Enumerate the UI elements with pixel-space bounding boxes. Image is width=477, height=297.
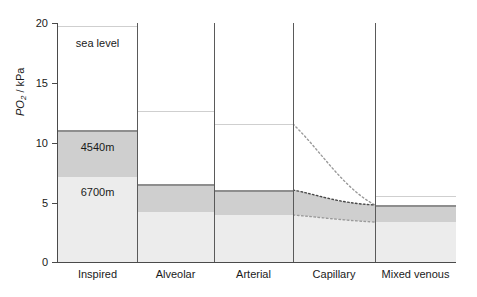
label-sea-level: sea level — [58, 37, 137, 49]
plot-area: sea level 4540m 6700m — [58, 23, 456, 262]
column-mixed-venous — [375, 23, 456, 262]
line-sea-level-inspired — [58, 26, 137, 27]
divider-arterial-capillary — [293, 23, 294, 262]
line-4540m-alveolar — [137, 184, 214, 186]
po2-altitude-chart: PO2 / kPa 20 15 10 5 0 sea level 4540m 6… — [0, 0, 477, 297]
capillary-low-fill — [293, 215, 375, 262]
line-4540m-mixed-venous — [375, 205, 456, 207]
divider-inspired-alveolar — [137, 23, 138, 262]
column-alveolar — [137, 23, 214, 262]
capillary-decay-curves — [293, 23, 375, 262]
line-sea-level-alveolar — [137, 111, 214, 112]
line-4540m-inspired — [58, 130, 137, 132]
line-sea-level-mixed-venous — [375, 196, 456, 197]
band-6700m-arterial — [214, 215, 293, 262]
y-axis-label: PO2 / kPa — [14, 26, 28, 116]
x-tick-label-capillary: Capillary — [293, 268, 375, 280]
divider-alveolar-arterial — [214, 23, 215, 262]
x-tick-label-inspired: Inspired — [58, 268, 137, 280]
x-axis-line — [57, 262, 456, 263]
label-4540m: 4540m — [58, 141, 137, 153]
line-sea-level-arterial — [214, 124, 293, 125]
x-tick-label-arterial: Arterial — [214, 268, 293, 280]
x-tick-label-alveolar: Alveolar — [137, 268, 214, 280]
line-4540m-arterial — [214, 190, 293, 192]
band-4540m-arterial — [214, 190, 293, 215]
y-tick-label-15: 15 — [20, 77, 48, 89]
x-tick-label-mixed-venous: Mixed venous — [375, 268, 456, 280]
band-6700m-mixed-venous — [375, 222, 456, 262]
band-4540m-mixed-venous — [375, 205, 456, 222]
y-tick-label-5: 5 — [20, 197, 48, 209]
y-tick-label-20: 20 — [20, 17, 48, 29]
band-4540m-alveolar — [137, 184, 214, 212]
label-6700m: 6700m — [58, 186, 137, 198]
divider-capillary-mixed-venous — [375, 23, 376, 262]
column-arterial — [214, 23, 293, 262]
column-capillary — [293, 23, 375, 262]
band-6700m-alveolar — [137, 212, 214, 262]
column-inspired: sea level 4540m 6700m — [58, 23, 137, 262]
y-tick-label-10: 10 — [20, 137, 48, 149]
y-tick-label-0: 0 — [20, 256, 48, 268]
band-4540m-inspired — [58, 130, 137, 177]
